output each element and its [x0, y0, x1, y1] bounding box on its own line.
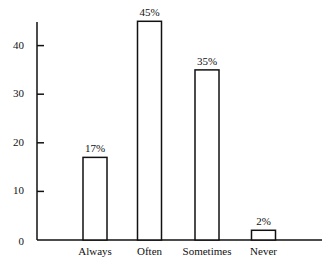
y-tick-label: 0 [4, 236, 24, 247]
data-label-never: 2% [244, 216, 284, 227]
y-tick-label: 10 [4, 185, 24, 196]
y-tick-label: 20 [4, 137, 24, 148]
data-label-always: 17% [75, 143, 115, 154]
x-tick-label-never: Never [229, 245, 299, 257]
y-tick-label: 30 [4, 88, 24, 99]
bar-never [252, 230, 276, 240]
bar-often [138, 21, 162, 240]
bar-sometimes [195, 70, 219, 240]
bar-chart: 01020304017%Always45%Often35%Sometimes2%… [0, 0, 333, 266]
data-label-sometimes: 35% [187, 56, 227, 67]
data-label-often: 45% [130, 7, 170, 18]
y-tick-label: 40 [4, 40, 24, 51]
bar-always [83, 157, 107, 240]
